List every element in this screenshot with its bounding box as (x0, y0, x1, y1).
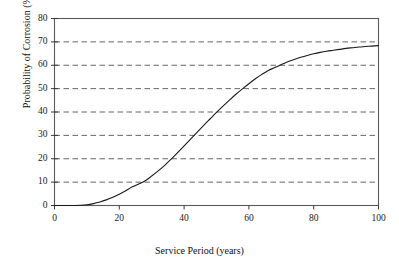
series-line (55, 46, 379, 206)
y-tick-label: 20 (0, 154, 48, 164)
x-tick-label: 20 (115, 214, 125, 224)
chart-figure: 01020304050607080 020406080100 Probabili… (0, 0, 399, 260)
plot-area-svg (0, 0, 399, 260)
data-series-group (55, 46, 379, 206)
x-tick-label: 40 (179, 214, 189, 224)
y-tick-label: 10 (0, 177, 48, 187)
x-tick-label: 0 (52, 214, 57, 224)
x-tick-label: 60 (244, 214, 254, 224)
y-tick-label: 0 (0, 201, 48, 211)
x-tick-label: 100 (371, 214, 385, 224)
x-axis-title: Service Period (years) (0, 245, 399, 256)
x-tick-label: 80 (309, 214, 319, 224)
y-axis-title: Probability of Corrosion (%) (21, 0, 32, 141)
